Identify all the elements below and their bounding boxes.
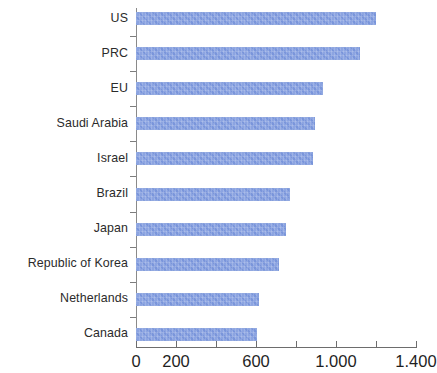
category-label: US [0,12,128,25]
bar [136,12,376,25]
category-tick [130,106,136,107]
bar [136,223,286,236]
category-tick [130,247,136,248]
value-axis-tick-label: 600 [242,351,270,371]
category-label: Canada [0,327,128,340]
category-tick [130,71,136,72]
value-axis-tick [296,341,297,348]
category-label: Republic of Korea [0,257,128,270]
category-tick [130,141,136,142]
value-axis-tick [176,341,177,348]
category-tick [130,36,136,37]
value-axis-tick [416,341,417,348]
category-tick [130,176,136,177]
value-axis-tick [376,341,377,348]
bar [136,152,313,165]
category-tick [130,212,136,213]
category-label: Saudi Arabia [0,117,128,130]
value-axis-tick [216,341,217,348]
category-label: PRC [0,47,128,60]
plot-area [136,0,434,347]
category-tick [130,282,136,283]
value-axis-tick-label: 0 [131,351,140,371]
category-label: Israel [0,152,128,165]
value-axis-line [136,347,417,348]
value-axis-tick-label: 1.400 [395,351,436,371]
category-tick [130,317,136,318]
category-label: EU [0,82,128,95]
bar [136,293,259,306]
bar [136,47,360,60]
value-axis-tick-label: 200 [162,351,190,371]
value-axis-tick [256,341,257,348]
bar [136,82,323,95]
category-label: Japan [0,222,128,235]
bar [136,328,257,341]
bar [136,188,290,201]
category-axis: USPRCEUSaudi ArabiaIsraelBrazilJapanRepu… [0,0,128,345]
value-axis-tick [336,341,337,348]
category-label: Brazil [0,187,128,200]
bar [136,117,315,130]
value-axis-tick-label: 1.000 [315,351,356,371]
value-axis-tick [136,341,137,348]
bar [136,258,279,271]
category-label: Netherlands [0,292,128,305]
